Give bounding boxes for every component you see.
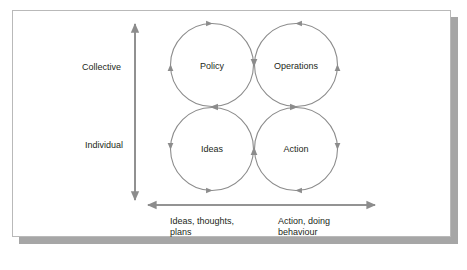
circle-label-policy: Policy [200,61,224,71]
axis-label-ideas-thoughts-plans: Ideas, thoughts, plans [170,216,234,238]
circle-label-action: Action [283,144,308,154]
axis-label-action-doing-behaviour: Action, doing behaviour [278,216,330,238]
axis-label-line2: behaviour [278,227,318,237]
axis-label-collective: Collective [82,62,121,73]
axis-label-line1: Action, doing [278,216,330,226]
axis-label-individual: Individual [85,140,123,151]
axis-label-line1: Ideas, thoughts, [170,216,234,226]
circle-label-ideas: Ideas [201,144,223,154]
axis-label-line2: plans [170,227,192,237]
diagram-canvas: Collective Individual Ideas, thoughts, p… [0,0,467,270]
circle-label-operations: Operations [274,61,318,71]
